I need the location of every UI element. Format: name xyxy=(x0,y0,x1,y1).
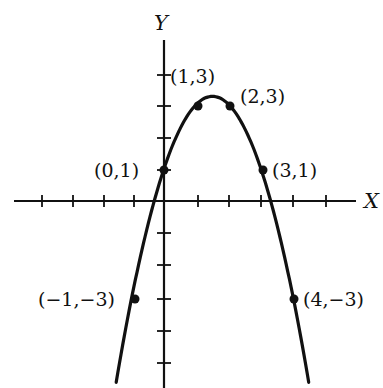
label-point-3-1: (3,1) xyxy=(272,159,317,181)
label-point-m1-m3: (−1,−3) xyxy=(38,288,115,310)
label-point-1-3: (1,3) xyxy=(170,65,215,87)
label-point-0-1: (0,1) xyxy=(94,159,139,181)
point-4-m3 xyxy=(290,295,299,304)
label-point-4-m3: (4,−3) xyxy=(303,288,364,310)
parabola-curve xyxy=(116,96,309,382)
point-2-3 xyxy=(226,102,235,111)
label-point-2-3: (2,3) xyxy=(240,85,285,107)
data-points xyxy=(131,102,299,304)
x-axis-label: X xyxy=(362,189,380,213)
point-1-3 xyxy=(194,102,203,111)
y-axis-label: Y xyxy=(154,11,170,35)
point-0-1 xyxy=(160,166,169,175)
point-3-1 xyxy=(259,166,268,175)
point-m1-m3 xyxy=(131,295,140,304)
parabola-chart: (−1,−3) (0,1) (1,3) (2,3) (3,1) (4,−3) X… xyxy=(0,0,383,388)
